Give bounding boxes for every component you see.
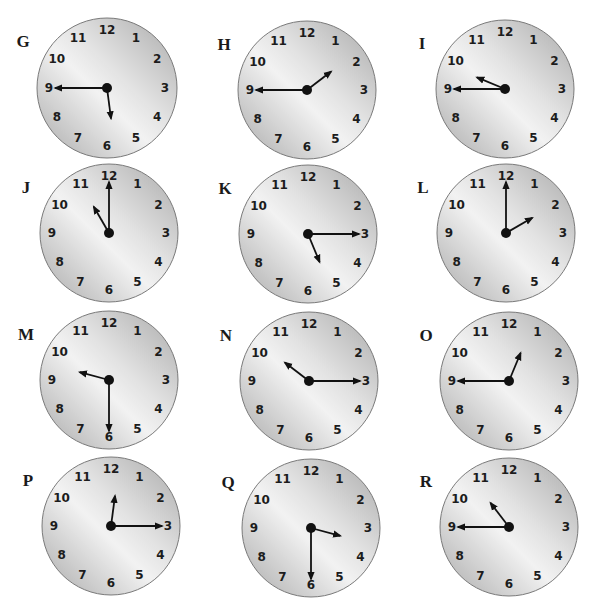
- clock-number: 9: [246, 83, 254, 97]
- clock-number: 9: [48, 373, 56, 387]
- clock-number: 12: [497, 25, 514, 39]
- clock-number: 6: [105, 283, 113, 297]
- clock-number: 11: [472, 471, 489, 485]
- clock-number: 7: [78, 568, 86, 582]
- clock-number: 4: [154, 402, 162, 416]
- clock-number: 4: [554, 549, 562, 563]
- clock-number: 7: [274, 132, 282, 146]
- clock-number: 2: [156, 491, 164, 505]
- clock-number: 12: [299, 26, 316, 40]
- clock-number: 11: [468, 33, 485, 47]
- clock-label: P: [23, 471, 33, 491]
- clock-number: 5: [135, 568, 143, 582]
- clock-number: 11: [74, 470, 91, 484]
- clock-label: J: [22, 178, 31, 198]
- clock-number: 4: [354, 403, 362, 417]
- clock-number: 10: [251, 346, 268, 360]
- clock-number: 8: [455, 403, 463, 417]
- clock-number: 2: [154, 345, 162, 359]
- clock-number: 9: [250, 521, 258, 535]
- clock-hub: [501, 228, 511, 238]
- clock-number: 10: [250, 199, 267, 213]
- clock-number: 3: [562, 374, 570, 388]
- clock-number: 12: [99, 23, 116, 37]
- clock-number: 4: [356, 550, 364, 564]
- clock-number: 11: [70, 31, 87, 45]
- clock-hub: [304, 376, 314, 386]
- clock-number: 1: [332, 178, 340, 192]
- clock-number: 8: [452, 255, 460, 269]
- clock-number: 5: [132, 131, 140, 145]
- clock-hub: [500, 84, 510, 94]
- clock-number: 10: [451, 346, 468, 360]
- clock-label: L: [417, 178, 428, 198]
- clock-number: 4: [153, 110, 161, 124]
- clock-number: 10: [249, 55, 266, 69]
- clock-label: Q: [221, 473, 234, 493]
- clock-number: 9: [445, 226, 453, 240]
- clock-number: 11: [272, 325, 289, 339]
- clock-number: 7: [76, 422, 84, 436]
- clock-number: 3: [559, 226, 567, 240]
- clock-number: 11: [472, 325, 489, 339]
- clock-number: 12: [300, 170, 317, 184]
- clock-hub: [102, 83, 112, 93]
- clock-number: 8: [55, 255, 63, 269]
- clock-number: 9: [50, 519, 58, 533]
- clock-number: 6: [105, 430, 113, 444]
- clock-number: 7: [473, 275, 481, 289]
- clock-number: 8: [455, 549, 463, 563]
- clock-number: 6: [305, 431, 313, 445]
- clock-number: 6: [107, 576, 115, 590]
- clock-number: 12: [101, 316, 118, 330]
- clock-number: 3: [558, 82, 566, 96]
- clock-number: 4: [352, 112, 360, 126]
- clock-number: 5: [332, 276, 340, 290]
- clock-number: 6: [303, 140, 311, 154]
- clock-number: 5: [533, 569, 541, 583]
- clock-number: 1: [529, 33, 537, 47]
- clock-number: 7: [472, 131, 480, 145]
- clock-number: 7: [476, 569, 484, 583]
- clock-number: 11: [72, 177, 89, 191]
- clock-number: 2: [354, 346, 362, 360]
- clock-number: 10: [448, 198, 465, 212]
- clock-face: 121234567891011: [35, 16, 179, 160]
- clock-number: 1: [132, 31, 140, 45]
- clock-number: 10: [53, 491, 70, 505]
- clock-number: 8: [451, 111, 459, 125]
- clock-number: 8: [53, 110, 61, 124]
- clock-number: 4: [353, 256, 361, 270]
- clock-hub: [302, 85, 312, 95]
- clock-number: 5: [335, 570, 343, 584]
- clock-number: 5: [331, 132, 339, 146]
- clock-number: 6: [505, 431, 513, 445]
- clock-number: 5: [133, 275, 141, 289]
- clock-number: 12: [103, 462, 120, 476]
- clock-face: 121234567891011: [38, 162, 180, 304]
- clock-number: 10: [253, 493, 270, 507]
- clock-number: 3: [364, 521, 372, 535]
- clock-number: 2: [356, 493, 364, 507]
- clock-number: 6: [307, 578, 315, 592]
- clock-number: 10: [48, 52, 65, 66]
- clock-face: 121234567891011: [236, 19, 378, 161]
- clock-number: 7: [278, 570, 286, 584]
- clock-number: 12: [303, 464, 320, 478]
- clock-number: 3: [162, 373, 170, 387]
- clock-number: 7: [276, 423, 284, 437]
- clock-number: 7: [74, 131, 82, 145]
- clock-number: 7: [275, 276, 283, 290]
- clock-number: 5: [529, 131, 537, 145]
- clock-number: 5: [333, 423, 341, 437]
- clock-number: 9: [48, 226, 56, 240]
- clock-number: 10: [451, 492, 468, 506]
- clock-number: 3: [360, 83, 368, 97]
- clock-number: 11: [469, 177, 486, 191]
- clock-label: K: [218, 179, 231, 199]
- clock-face: 121234567891011: [438, 310, 580, 452]
- clock-face: 121234567891011: [38, 309, 180, 451]
- clock-label: M: [18, 325, 34, 345]
- clock-face: 121234567891011: [240, 457, 382, 599]
- clock-number: 1: [533, 325, 541, 339]
